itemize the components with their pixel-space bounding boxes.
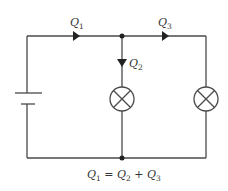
label-q1: Q1 [70, 16, 84, 31]
junction-top-dot [120, 34, 125, 39]
circuit-diagram: Q1 Q3 Q2 Q1 = Q2 + Q3 [0, 0, 228, 191]
arrow-right-icon-q3 [162, 31, 169, 41]
lamp-right-icon [194, 87, 218, 111]
lamp-middle-icon [110, 87, 134, 111]
arrow-right-icon-q1 [73, 31, 80, 41]
junction-bottom-dot [120, 156, 125, 161]
label-q3: Q3 [158, 16, 172, 31]
label-q2: Q2 [129, 57, 143, 72]
arrow-down-icon-q2 [117, 59, 127, 67]
wires [27, 36, 206, 158]
equation-label: Q1 = Q2 + Q3 [87, 168, 161, 183]
battery-icon [15, 93, 42, 104]
